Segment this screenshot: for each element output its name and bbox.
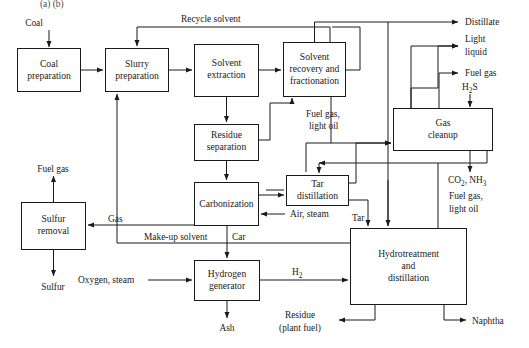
label-fuel-gas-light-oil-mid-line2: light oil (309, 121, 339, 131)
svg-text:CO2, NH3: CO2, NH3 (448, 175, 487, 188)
box-coal-preparation-line2: preparation (27, 70, 71, 81)
label-coal: Coal (25, 18, 43, 28)
label-naphtha: Naphtha (472, 316, 505, 326)
box-sulfur-removal-line2: removal (38, 225, 70, 236)
box-group-solvent-recovery: Solvent recovery and fractionation (284, 43, 346, 97)
top-cropped-caption: (a) (b) (40, 0, 64, 10)
box-hydrotreatment-line2: and (402, 260, 416, 271)
box-residue-separation-line1: Residue (211, 129, 242, 140)
box-group-sulfur-removal: Sulfur removal (22, 203, 86, 250)
line-solventrecovery-to-distillate (315, 22, 459, 43)
line-gascleanup-to-lightliquid (411, 46, 458, 109)
box-group-hydrotreatment: Hydrotreatment and distillation (351, 229, 467, 305)
line-hydrotreatment-to-residue (339, 305, 375, 321)
box-hydrotreatment-line1: Hydrotreatment (378, 248, 439, 259)
box-gas-cleanup-line2: cleanup (428, 129, 458, 140)
box-group-gas-cleanup: Gas cleanup (394, 109, 493, 151)
label-h2-sub: 2 (299, 272, 303, 280)
box-group-solvent-extraction: Solvent extraction (195, 45, 259, 97)
label-h2: H2 (292, 267, 303, 280)
label-nh3-b: , NH (465, 175, 483, 185)
label-tar: Tar (352, 213, 365, 223)
box-gas-cleanup-line1: Gas (436, 117, 451, 128)
label-co2-a: CO (448, 175, 461, 185)
process-flow-diagram: Coal preparation Slurry preparation Solv… (0, 0, 529, 348)
label-oxygen-steam: Oxygen, steam (78, 275, 135, 285)
label-fuel-gas-light-oil-right-line1: Fuel gas, (449, 191, 483, 201)
box-group-hydrogen-generator: Hydrogen generator (195, 261, 260, 301)
label-fuel-gas-left: Fuel gas (37, 164, 69, 174)
box-slurry-preparation-line1: Slurry (125, 58, 149, 69)
box-carbonization-line1: Carbonization (199, 198, 254, 209)
box-solvent-recovery-line2: recovery and (290, 63, 340, 74)
box-hydrotreatment-line3: distillation (388, 272, 429, 283)
label-nh3-b-sub: 3 (483, 180, 487, 188)
label-make-up-solvent: Make-up solvent (144, 232, 208, 242)
label-fuel-gas-light-oil-mid-line1: Fuel gas, (306, 109, 340, 119)
svg-text:H2S: H2S (462, 82, 478, 95)
label-air-steam: Air, steam (290, 209, 329, 219)
label-ash: Ash (219, 323, 234, 333)
label-h2s: H2S (462, 82, 478, 95)
label-h2s-tail: S (472, 82, 477, 92)
box-solvent-recovery-line3: fractionation (290, 75, 339, 86)
label-residue-line2: (plant fuel) (279, 323, 321, 334)
box-sulfur-removal-line1: Sulfur (42, 213, 67, 224)
label-fuel-gas-light-oil-right-line2: light oil (449, 204, 479, 214)
label-light-liquid-line1: Light (465, 34, 486, 44)
label-car: Car (232, 232, 246, 242)
label-light-liquid-line2: liquid (465, 47, 487, 57)
box-solvent-extraction-line2: extraction (207, 69, 246, 80)
flow-diagram-canvas: Coal preparation Slurry preparation Solv… (0, 0, 529, 348)
box-group-coal-preparation: Coal preparation (18, 49, 81, 92)
box-group-tar-distillation: Tar distillation (287, 176, 349, 206)
label-sulfur: Sulfur (41, 282, 65, 292)
box-group-carbonization: Carbonization (195, 183, 259, 226)
box-tar-distillation-line2: distillation (297, 190, 338, 201)
box-solvent-extraction-line1: Solvent (212, 57, 242, 68)
line-residueseparation-to-solventrecovery (259, 98, 293, 140)
label-co2-nh3: CO2, NH3 (448, 175, 487, 188)
box-group-residue-separation: Residue separation (195, 125, 259, 161)
label-gas: Gas (108, 214, 123, 224)
line-hydrotreatment-to-lightliquid (411, 46, 458, 109)
box-hydrogen-generator-line2: generator (209, 280, 246, 291)
box-residue-separation-line2: separation (207, 141, 247, 152)
label-fuel-gas-right: Fuel gas (465, 68, 497, 78)
box-tar-distillation-line1: Tar (311, 178, 324, 189)
svg-text:H2: H2 (292, 267, 303, 280)
box-solvent-recovery-line1: Solvent (300, 51, 330, 62)
label-recycle-solvent: Recycle solvent (181, 14, 241, 24)
box-coal-preparation-line1: Coal (40, 58, 58, 69)
box-slurry-preparation-line2: preparation (115, 70, 159, 81)
line-hydrotreatment-to-naphtha (444, 305, 466, 321)
label-distillate: Distillate (465, 17, 499, 27)
line-gascleanup-to-fuelgas (439, 73, 458, 109)
label-residue-line1: Residue (285, 310, 315, 320)
box-group-slurry-preparation: Slurry preparation (106, 49, 169, 92)
box-hydrogen-generator-line1: Hydrogen (208, 268, 247, 279)
